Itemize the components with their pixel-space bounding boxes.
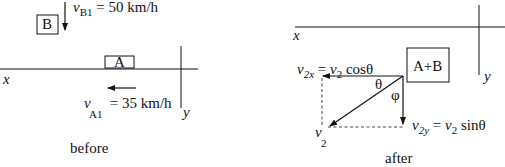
collision-diagram: B vB1 = 50 km/h x y A vA1 = 35 km/h befo… [0,0,505,167]
box-a-label: A [114,54,125,70]
x-axis-label-after: x [292,27,300,43]
phi-label: φ [391,87,400,103]
vb1-label: vB1 = 50 km/h [73,0,159,18]
caption-after: after [385,150,412,166]
after-panel: x y A+B θ φ v2x = v2 cosθ v2y = v2 sinθ … [292,5,505,166]
v2-label: v2 [315,124,327,149]
box-ab-label: A+B [413,58,442,74]
caption-before: before [70,140,109,156]
theta-label: θ [375,76,382,92]
x-axis-label-before: x [2,71,10,87]
va1-label: vA1 = 35 km/h [84,95,172,120]
before-panel: B vB1 = 50 km/h x y A vA1 = 35 km/h befo… [0,0,198,156]
y-axis-label-after: y [482,68,491,84]
y-axis-label-before: y [181,104,190,120]
box-b-label: B [42,16,52,32]
v2x-label: v2x = v2 cosθ [297,61,373,80]
v2y-label: v2y = v2 sinθ [412,117,486,136]
